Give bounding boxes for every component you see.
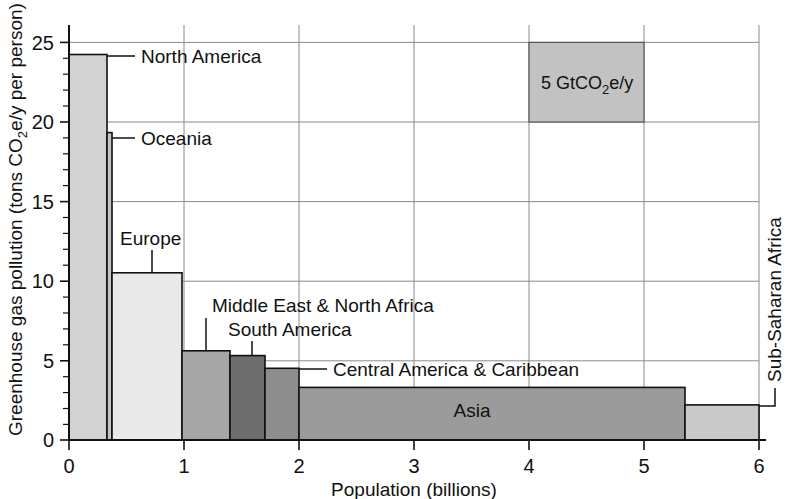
bar-south-america[interactable]	[230, 356, 265, 440]
legend-reference-box[interactable]: 5 GtCO2e/y	[529, 42, 644, 122]
series-label-asia: Asia	[454, 400, 491, 421]
bar-asia[interactable]	[299, 387, 685, 440]
bar-central-america-caribbean[interactable]	[265, 368, 299, 440]
ytick-label-20: 20	[32, 111, 54, 133]
ytick-label-25: 25	[32, 32, 54, 54]
ytick-label-10: 10	[32, 270, 54, 292]
series-label-middle-east-north-africa: Middle East & North Africa	[212, 295, 434, 316]
series-label-oceania: Oceania	[141, 128, 212, 149]
series-label-sub-saharan-africa: Sub-Saharan Africa	[764, 217, 785, 382]
leader-sub-saharan-africa	[759, 388, 775, 406]
xtick-label-4: 4	[523, 455, 534, 477]
xtick-label-6: 6	[753, 455, 764, 477]
bar-sub-saharan-africa[interactable]	[685, 405, 759, 440]
y-axis-title: Greenhouse gas pollution (tons CO2e/y pe…	[5, 3, 30, 436]
xtick-label-3: 3	[408, 455, 419, 477]
xtick-label-0: 0	[63, 455, 74, 477]
bar-middle-east-north-africa[interactable]	[182, 351, 230, 440]
bar-europe[interactable]	[112, 273, 182, 440]
x-axis-ticks	[69, 440, 759, 450]
xtick-label-2: 2	[293, 455, 304, 477]
x-axis-tick-labels: 0 1 2 3 4 5 6	[63, 455, 764, 477]
series-label-north-america: North America	[141, 46, 262, 67]
series-label-south-america: South America	[228, 319, 352, 340]
ytick-label-5: 5	[43, 350, 54, 372]
y-axis-tick-labels: 25 20 15 10 5 0	[32, 32, 54, 451]
y-axis-ticks	[60, 42, 69, 440]
xtick-label-5: 5	[638, 455, 649, 477]
series-label-europe: Europe	[120, 228, 181, 249]
chart-canvas: 5 GtCO2e/y North America Oceania Europe …	[0, 0, 795, 499]
ghg-population-chart: 5 GtCO2e/y North America Oceania Europe …	[0, 0, 795, 499]
xtick-label-1: 1	[178, 455, 189, 477]
bar-north-america[interactable]	[69, 55, 107, 441]
ytick-label-15: 15	[32, 191, 54, 213]
series-label-central-america-caribbean: Central America & Caribbean	[333, 359, 579, 380]
x-axis-title: Population (billions)	[331, 479, 497, 499]
ytick-label-0: 0	[43, 429, 54, 451]
